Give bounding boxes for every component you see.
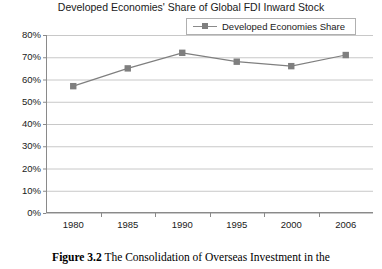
x-axis-tick-label: 1980 [63,219,84,231]
y-axis-ticks [43,36,46,214]
y-axis-tick-label: 40% [0,119,41,129]
x-axis-tick-label: 1985 [117,219,138,231]
x-axis-tick-label: 1990 [172,219,193,231]
figure-caption-text: The Consolidation of Overseas Investment… [102,251,330,263]
series-markers-developed-economies-share [70,50,349,90]
y-axis-tick-label: 60% [0,75,41,85]
y-axis-tick-label: 20% [0,164,41,174]
x-axis-tick-label: 1995 [226,219,247,231]
legend-marker-icon [193,21,217,32]
y-axis-tick-label: 30% [0,141,41,151]
x-axis-tick-label: 2000 [281,219,302,231]
x-axis-tick-labels: 198019851990199520002006 [46,219,373,233]
y-axis-tick-label: 70% [0,52,41,62]
legend-label: Developed Economies Share [222,21,345,32]
y-axis-tick-labels: 0%10%20%30%40%50%60%70%80% [0,0,42,269]
y-axis-tick-label: 10% [0,186,41,196]
x-axis-tick-label: 2006 [335,219,356,231]
y-axis-tick-label: 80% [0,30,41,40]
line-chart-svg [46,35,373,213]
chart-title: Developed Economies' Share of Global FDI… [0,1,382,14]
figure-caption: Figure 3.2 The Consolidation of Overseas… [0,250,382,264]
y-axis-tick-label: 0% [0,208,41,218]
figure-container: Developed Economies' Share of Global FDI… [0,0,382,269]
chart-legend: Developed Economies Share [186,18,356,35]
gridlines [46,36,373,214]
y-axis-tick-label: 50% [0,97,41,107]
plot-area [46,35,373,213]
figure-caption-number: Figure 3.2 [52,251,102,263]
